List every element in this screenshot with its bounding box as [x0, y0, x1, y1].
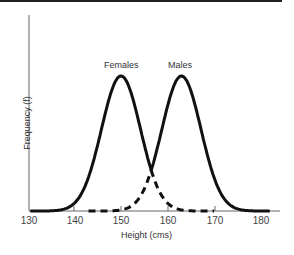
y-axis-label: Frequency (f): [22, 83, 32, 163]
x-tick-label: 160: [160, 215, 177, 226]
males-curve-solid: [151, 76, 270, 211]
females-label: Females: [104, 60, 139, 70]
females-curve-dashed: [151, 170, 214, 211]
x-tick-label: 150: [113, 215, 130, 226]
x-tick-label: 130: [21, 215, 38, 226]
x-tick-label: 180: [253, 215, 270, 226]
x-tick-label: 140: [67, 215, 84, 226]
females-curve-solid: [30, 76, 151, 211]
x-axis-label: Height (cms): [121, 230, 172, 240]
x-tick-label: 170: [207, 215, 224, 226]
males-label: Males: [168, 60, 192, 70]
males-curve-dashed: [89, 170, 152, 211]
chart-plot: [0, 0, 294, 255]
